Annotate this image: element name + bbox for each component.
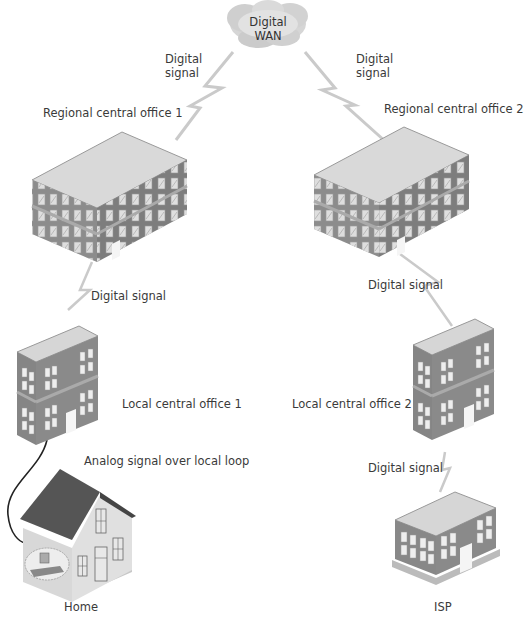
computer-icon [25,548,69,580]
edge-label-lco1-home: Analog signal over local loop [84,454,249,468]
building-icon-regional-2 [314,127,469,257]
edge-label-line1: Digital [356,52,393,66]
edge-label-rco1-lco1: Digital signal [91,289,166,303]
edge-label-wan-rco2: Digital signal [356,52,393,80]
node-label-local-1: Local central office 1 [122,397,242,411]
cloud-label-digital-wan: Digital WAN [244,15,292,43]
edge-label-wan-rco1: Digital signal [165,52,202,80]
building-icon-isp [392,492,500,585]
building-icon-regional-1 [32,132,187,262]
edge-label-lco2-isp: Digital signal [368,461,443,475]
house-icon-home [20,469,136,602]
node-label-isp: ISP [434,600,452,614]
link-lco1-home-wire [8,440,47,543]
node-label-local-2: Local central office 2 [292,397,412,411]
cloud-label-line2: WAN [244,29,292,43]
building-icon-local-1 [17,326,98,445]
node-label-home: Home [64,600,98,614]
link-rco1-lco1 [68,262,92,310]
edge-label-line2: signal [165,66,202,80]
cloud-label-line1: Digital [244,15,292,29]
edge-label-rco2-lco2: Digital signal [368,278,443,292]
building-icon-local-2 [413,319,494,440]
edge-label-line1: Digital [165,52,202,66]
edge-label-line2: signal [356,66,393,80]
node-label-regional-1: Regional central office 1 [43,106,183,120]
node-label-regional-2: Regional central office 2 [384,102,524,116]
